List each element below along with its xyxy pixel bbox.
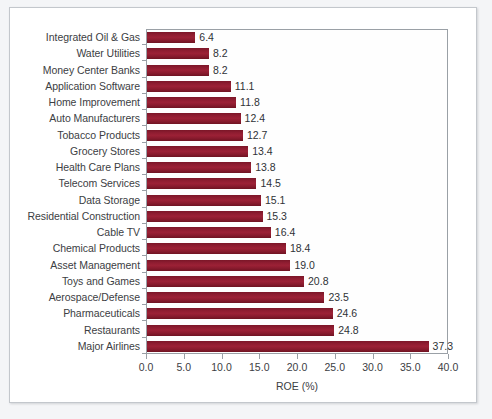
bar-value-label: 37.3 (433, 338, 453, 355)
bar[interactable] (147, 276, 304, 287)
bar-row: Money Center Banks8.2 (10, 62, 478, 79)
bar-row: Health Care Plans13.8 (10, 159, 478, 176)
bar[interactable] (147, 292, 324, 303)
bar-fill (147, 81, 231, 92)
category-label: Asset Management (10, 257, 140, 274)
bar-value-label: 12.4 (245, 110, 265, 127)
bar[interactable] (147, 243, 286, 254)
bar-row: Data Storage15.1 (10, 192, 478, 209)
category-label: Water Utilities (10, 45, 140, 62)
bar-fill (147, 276, 304, 287)
bar[interactable] (147, 325, 334, 336)
category-label: Chemical Products (10, 240, 140, 257)
category-label: Telecom Services (10, 175, 140, 192)
bar-value-label: 11.1 (235, 78, 255, 95)
bar-fill (147, 97, 236, 108)
bar-fill (147, 178, 256, 189)
category-label: Auto Manufacturers (10, 110, 140, 127)
bar-fill (147, 32, 195, 43)
x-axis-tick (373, 354, 374, 359)
bar[interactable] (147, 195, 261, 206)
category-label: Aerospace/Defense (10, 289, 140, 306)
bar-row: Residential Construction15.3 (10, 208, 478, 225)
x-axis-title: ROE (%) (146, 380, 448, 392)
x-axis-tick (297, 354, 298, 359)
bar-fill (147, 211, 263, 222)
bar-value-label: 13.8 (255, 159, 275, 176)
bar[interactable] (147, 32, 195, 43)
bar-fill (147, 162, 251, 173)
x-axis-tick-label: 40.0 (428, 361, 468, 373)
bar-value-label: 13.4 (252, 143, 272, 160)
bar-value-label: 23.5 (328, 289, 348, 306)
x-axis-tick-label: 0.0 (126, 361, 166, 373)
category-label: Tobacco Products (10, 127, 140, 144)
bar-value-label: 6.4 (199, 29, 214, 46)
bar-row: Asset Management19.0 (10, 257, 478, 274)
bar[interactable] (147, 65, 209, 76)
x-axis-tick (259, 354, 260, 359)
bar[interactable] (147, 341, 429, 352)
bar-row: Toys and Games20.8 (10, 273, 478, 290)
bar-value-label: 19.0 (294, 257, 314, 274)
bar-fill (147, 341, 429, 352)
bar[interactable] (147, 211, 263, 222)
bar-row: Water Utilities8.2 (10, 45, 478, 62)
bar-row: Auto Manufacturers12.4 (10, 110, 478, 127)
bar-value-label: 20.8 (308, 273, 328, 290)
category-label: Money Center Banks (10, 62, 140, 79)
bar-value-label: 12.7 (247, 127, 267, 144)
bar[interactable] (147, 81, 231, 92)
bar-row: Integrated Oil & Gas6.4 (10, 29, 478, 46)
bar[interactable] (147, 146, 248, 157)
bar[interactable] (147, 113, 241, 124)
bar-fill (147, 65, 209, 76)
x-axis-tick (222, 354, 223, 359)
bar-row: Application Software11.1 (10, 78, 478, 95)
bar[interactable] (147, 97, 236, 108)
bar-value-label: 15.3 (267, 208, 287, 225)
bar-fill (147, 227, 271, 238)
bar[interactable] (147, 227, 271, 238)
category-label: Restaurants (10, 322, 140, 339)
x-axis-tick-label: 10.0 (202, 361, 242, 373)
chart-container: Integrated Oil & Gas6.4Water Utilities8.… (9, 7, 477, 403)
bar[interactable] (147, 48, 209, 59)
bar[interactable] (147, 260, 290, 271)
x-axis-tick-label: 5.0 (164, 361, 204, 373)
bar-row: Major Airlines37.3 (10, 338, 478, 355)
bar-fill (147, 292, 324, 303)
category-label: Health Care Plans (10, 159, 140, 176)
x-axis-tick-label: 35.0 (390, 361, 430, 373)
bar-row: Restaurants24.8 (10, 322, 478, 339)
x-axis-tick (184, 354, 185, 359)
bar-value-label: 16.4 (275, 224, 295, 241)
bar-value-label: 24.8 (338, 322, 358, 339)
bar-fill (147, 308, 333, 319)
bar-fill (147, 195, 261, 206)
bar-value-label: 14.5 (260, 175, 280, 192)
bar-fill (147, 130, 243, 141)
bar[interactable] (147, 178, 256, 189)
x-axis: 0.05.010.015.020.025.030.035.040.0 (146, 354, 448, 355)
bar-value-label: 18.4 (290, 240, 310, 257)
category-label: Cable TV (10, 224, 140, 241)
bar-fill (147, 48, 209, 59)
category-label: Major Airlines (10, 338, 140, 355)
x-axis-tick-label: 15.0 (239, 361, 279, 373)
x-axis-tick (335, 354, 336, 359)
bar-value-label: 11.8 (240, 94, 260, 111)
x-axis-tick-label: 20.0 (277, 361, 317, 373)
bar-fill (147, 113, 241, 124)
bar-row: Cable TV16.4 (10, 224, 478, 241)
bar[interactable] (147, 162, 251, 173)
x-axis-tick-label: 25.0 (315, 361, 355, 373)
bar-value-label: 8.2 (213, 45, 228, 62)
bar-fill (147, 146, 248, 157)
bar[interactable] (147, 130, 243, 141)
x-axis-tick-label: 30.0 (353, 361, 393, 373)
category-label: Pharmaceuticals (10, 305, 140, 322)
category-label: Application Software (10, 78, 140, 95)
bar-fill (147, 325, 334, 336)
bar[interactable] (147, 308, 333, 319)
